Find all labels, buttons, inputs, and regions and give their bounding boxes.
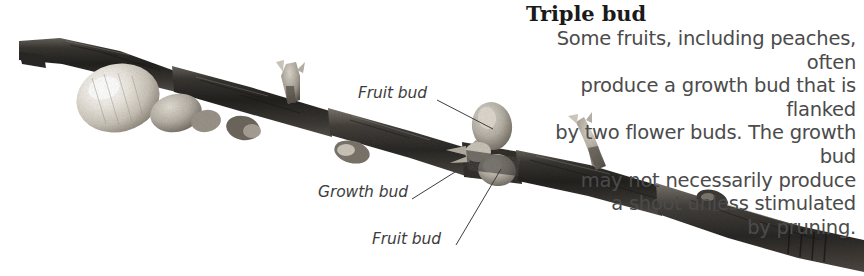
annotation-label-fruit-bud-bottom: Fruit bud: [372, 230, 441, 248]
annotation-label-fruit-bud-top: Fruit bud: [358, 84, 427, 102]
caption-body: Some fruits, including peaches, often pr…: [520, 27, 856, 239]
annotation-label-growth-bud: Growth bud: [318, 183, 408, 201]
caption-block: Triple bud Some fruits, including peache…: [520, 0, 860, 239]
triple-bud-figure: Fruit bud Growth bud Fruit bud Triple bu…: [0, 0, 864, 276]
caption-title: Triple bud: [526, 2, 860, 26]
